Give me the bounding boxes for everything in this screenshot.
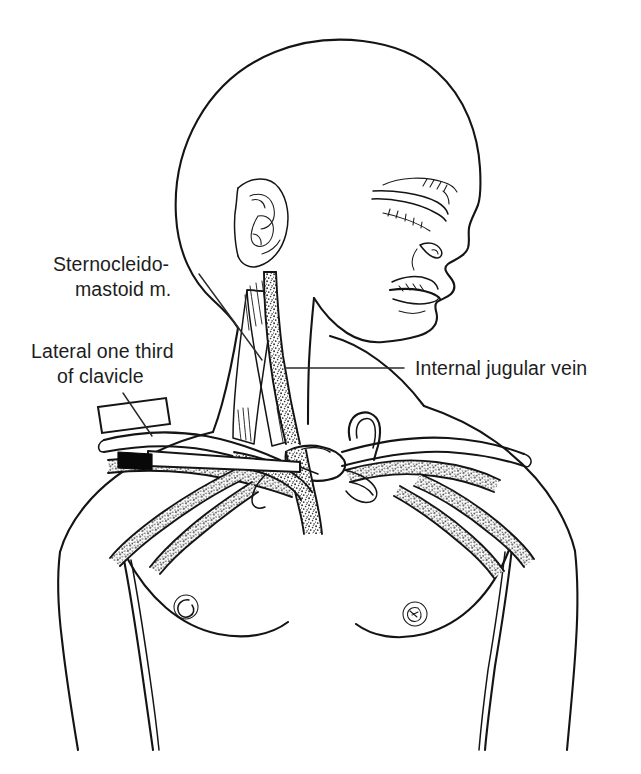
- anatomy-illustration-svg: Central venous access anatomy of the nec…: [0, 0, 641, 774]
- label-lateral-clavicle-line2: of clavicle: [57, 365, 144, 387]
- label-sternocleidomastoid-line2: mastoid m.: [75, 278, 171, 300]
- illustration-canvas: Central venous access anatomy of the nec…: [0, 0, 641, 774]
- label-lateral-clavicle-line1: Lateral one third: [31, 340, 174, 362]
- label-internal-jugular-vein: Internal jugular vein: [415, 357, 587, 379]
- background: [0, 0, 641, 774]
- label-sternocleidomastoid-line1: Sternocleido-: [53, 253, 169, 275]
- needle-hub[interactable]: [118, 452, 152, 470]
